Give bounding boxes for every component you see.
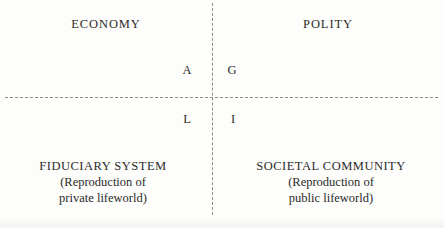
agil-letter-i: I xyxy=(223,112,243,127)
agil-quadrant-diagram: ECONOMY POLITY A G L I FIDUCIARY SYSTEM … xyxy=(0,0,444,228)
societal-community-subtitle-line1: (Reproduction of xyxy=(218,175,444,191)
agil-letter-a: A xyxy=(177,63,197,78)
quadrant-header-economy: ECONOMY xyxy=(0,17,212,32)
quadrant-block-fiduciary-system: FIDUCIARY SYSTEM (Reproduction of privat… xyxy=(0,159,206,207)
fiduciary-system-subtitle-line2: private lifeworld) xyxy=(0,191,206,207)
scan-artifact xyxy=(0,218,444,228)
societal-community-title: SOCIETAL COMMUNITY xyxy=(218,159,444,175)
fiduciary-system-subtitle-line1: (Reproduction of xyxy=(0,175,206,191)
quadrant-header-polity: POLITY xyxy=(212,17,444,32)
agil-letter-l: L xyxy=(177,112,197,127)
societal-community-subtitle-line2: public lifeworld) xyxy=(218,191,444,207)
quadrant-block-societal-community: SOCIETAL COMMUNITY (Reproduction of publ… xyxy=(218,159,444,207)
fiduciary-system-title: FIDUCIARY SYSTEM xyxy=(0,159,206,175)
horizontal-dashed-divider xyxy=(5,97,438,98)
agil-letter-g: G xyxy=(222,63,242,78)
vertical-dashed-divider xyxy=(212,3,213,215)
